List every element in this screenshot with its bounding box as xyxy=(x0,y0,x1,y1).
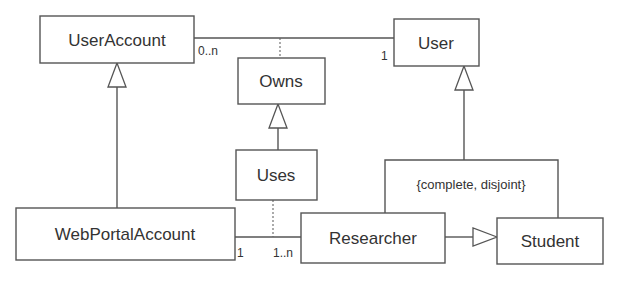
class-student[interactable]: Student xyxy=(497,218,603,264)
uml-diagram: UserAccount User Owns Uses WebPortalAcco… xyxy=(0,0,620,281)
class-user[interactable]: User xyxy=(394,19,479,66)
generalization-arrow-user-icon xyxy=(455,66,473,90)
constraint-label: {complete, disjoint} xyxy=(416,177,526,192)
class-useraccount[interactable]: UserAccount xyxy=(40,16,194,63)
class-uses[interactable]: Uses xyxy=(236,150,317,200)
class-owns[interactable]: Owns xyxy=(238,58,325,104)
class-useraccount-label: UserAccount xyxy=(68,31,166,50)
class-researcher[interactable]: Researcher xyxy=(301,213,445,263)
class-uses-label: Uses xyxy=(257,166,296,185)
multiplicity-researcher: 1..n xyxy=(273,246,293,260)
class-researcher-label: Researcher xyxy=(329,229,417,248)
class-user-label: User xyxy=(418,34,454,53)
multiplicity-useraccount: 0..n xyxy=(198,44,218,58)
multiplicity-webportalaccount: 1 xyxy=(237,246,244,260)
generalization-arrow-useraccount-icon xyxy=(108,63,126,87)
generalization-arrow-student-icon xyxy=(473,228,497,246)
generalization-arrow-owns-icon xyxy=(269,104,287,128)
class-owns-label: Owns xyxy=(259,72,302,91)
multiplicity-user: 1 xyxy=(381,49,388,63)
class-webportalaccount[interactable]: WebPortalAccount xyxy=(16,208,235,260)
class-webportalaccount-label: WebPortalAccount xyxy=(55,225,196,244)
class-student-label: Student xyxy=(521,232,580,251)
